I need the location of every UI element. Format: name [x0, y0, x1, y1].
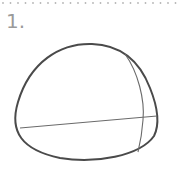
head-outline	[15, 44, 157, 160]
head-sketch	[0, 0, 180, 172]
horizontal-guide-line	[20, 116, 157, 128]
